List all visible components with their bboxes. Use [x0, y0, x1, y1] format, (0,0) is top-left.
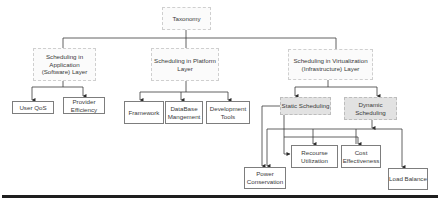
load-balance-node: Load Balance: [388, 168, 428, 190]
dynamic-scheduling-node: Dynamic Scheduling: [344, 97, 397, 120]
application-layer-node: Scheduling in Application (Software) Lay…: [33, 48, 96, 81]
static-scheduling-node: Static Scheduling: [280, 97, 331, 115]
power-conservation-node: Power Conservation: [244, 167, 286, 189]
virtualization-layer-node: Scheduling in Virtualization (Infrastruc…: [288, 49, 373, 80]
database-management-node: DataBase Mangement: [165, 101, 203, 124]
bottom-rule-divider: [2, 195, 438, 198]
development-tools-node: Development Tools: [206, 101, 250, 124]
cost-effectiveness-node: Cost Effectiveness: [341, 145, 381, 168]
provider-efficiency-node: Provider Efficiency: [63, 97, 105, 114]
platform-layer-node: Scheduling in Platform Layer: [151, 48, 219, 81]
taxonomy-root-node: Taxonomy: [162, 7, 211, 30]
framework-node: Framework: [124, 101, 164, 124]
user-qos-node: User QoS: [12, 101, 54, 114]
resource-utilization-node: Recourse Utilization: [291, 145, 338, 168]
